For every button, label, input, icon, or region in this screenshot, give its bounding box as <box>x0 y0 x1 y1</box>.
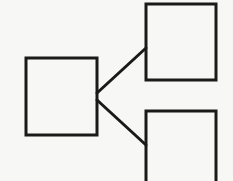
node-box-root <box>26 58 97 135</box>
diagram-canvas <box>0 0 233 181</box>
connector-root-child-bottom <box>97 100 146 145</box>
node-box-child-top <box>146 4 216 80</box>
node-box-child-bottom <box>146 111 216 181</box>
connector-root-child-top <box>97 48 146 93</box>
tree-diagram <box>0 0 233 181</box>
